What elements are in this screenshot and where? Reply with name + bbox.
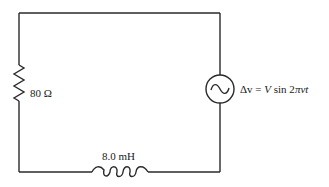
inductor-icon — [92, 167, 148, 177]
resistor-icon — [14, 65, 24, 101]
circuit-diagram: 80 Ω Δv = V sin 2πνt 8.0 mH — [0, 0, 329, 187]
resistor-label: 80 Ω — [30, 87, 52, 99]
inductor-label: 8.0 mH — [102, 150, 135, 162]
ac-source-sine-icon — [206, 75, 234, 103]
source-equation: Δv = V sin 2πνt — [240, 83, 309, 95]
